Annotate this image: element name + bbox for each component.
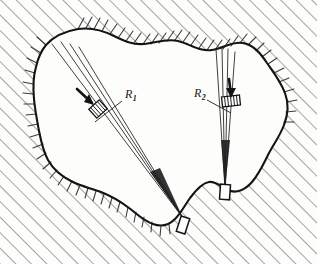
label-r1-subscript: 1 bbox=[133, 93, 137, 102]
borehole-collar-2 bbox=[219, 184, 230, 200]
label-r1-base: R bbox=[124, 87, 133, 101]
label-r2-base: R bbox=[193, 86, 202, 100]
diagram-canvas: R1 R2 bbox=[0, 0, 317, 264]
figure-container: R1 R2 bbox=[0, 0, 317, 264]
label-r2-subscript: 2 bbox=[201, 92, 206, 101]
